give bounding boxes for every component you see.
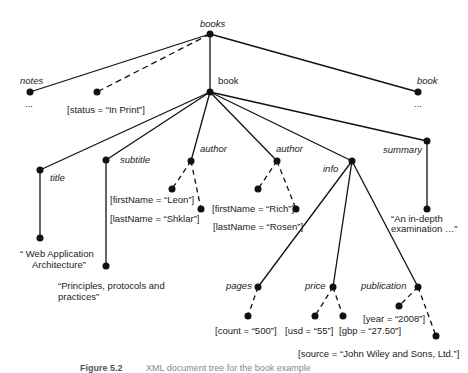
label-book-2: book bbox=[417, 75, 439, 86]
edge-books-book2 bbox=[210, 34, 418, 92]
author-1-last: [lastName = “Shklar”] bbox=[110, 213, 200, 224]
label-books: books bbox=[200, 18, 226, 29]
xml-tree-diagram: books notes ... [status = “In Print”] bo… bbox=[0, 0, 468, 373]
node-book2 bbox=[415, 89, 422, 96]
notes-ellipsis: ... bbox=[25, 98, 33, 109]
label-price: price bbox=[304, 280, 326, 291]
edge-book-summary bbox=[210, 92, 427, 141]
edge-books-notes bbox=[30, 34, 210, 92]
label-author-1: author bbox=[200, 143, 228, 154]
caption-text: XML document tree for the book example bbox=[146, 363, 311, 373]
node-book bbox=[207, 89, 214, 96]
label-status: [status = “In Print”] bbox=[67, 104, 145, 115]
book-2-ellipsis: ... bbox=[414, 98, 422, 109]
label-pages: pages bbox=[225, 280, 252, 291]
label-summary: summary bbox=[383, 144, 423, 155]
label-title: title bbox=[50, 172, 65, 183]
author-1-first: [firstName = “Leon”] bbox=[110, 194, 194, 205]
price-gbp: [gbp = “27.50”] bbox=[339, 325, 401, 336]
summary-value-2: examination …” bbox=[391, 223, 458, 234]
node-notes bbox=[27, 89, 34, 96]
title-value-2: Architecture” bbox=[32, 259, 86, 270]
node-books bbox=[207, 31, 214, 38]
caption-figure: Figure 5.2 bbox=[80, 363, 123, 373]
node-status bbox=[94, 89, 101, 96]
label-subtitle: subtitle bbox=[120, 154, 150, 165]
label-author-2: author bbox=[276, 143, 304, 154]
subtitle-value-2: practices” bbox=[58, 291, 99, 302]
label-book: book bbox=[218, 75, 239, 86]
edge-books-status bbox=[97, 34, 210, 92]
author-2-first: [firstName = “Rich”] bbox=[212, 203, 294, 214]
label-publication: publication bbox=[360, 280, 406, 291]
label-notes: notes bbox=[20, 75, 43, 86]
publication-year: [year = “2008”] bbox=[363, 313, 425, 324]
publication-source: [source = “John Wiley and Sons, Ltd.”] bbox=[298, 348, 459, 359]
author-2-last: [lastName = “Rosen”] bbox=[213, 221, 303, 232]
subtitle-value-1: “Principles, protocols and bbox=[58, 280, 165, 291]
label-info: info bbox=[323, 163, 338, 174]
pages-count: [count = “500”] bbox=[215, 325, 277, 336]
title-value-1: “ Web Application bbox=[20, 248, 94, 259]
price-usd: [usd = “55”] bbox=[285, 325, 333, 336]
